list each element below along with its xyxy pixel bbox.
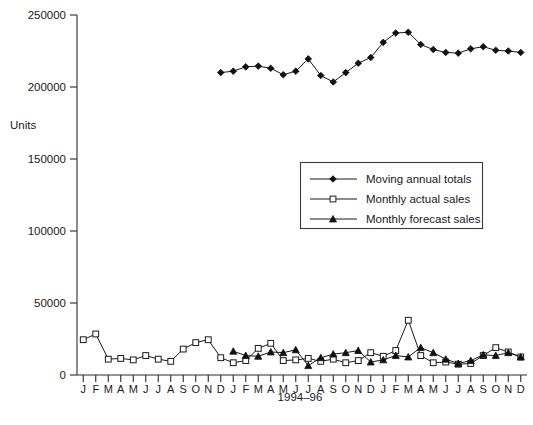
data-point bbox=[517, 49, 524, 56]
data-point bbox=[193, 340, 199, 346]
x-tick-label: J bbox=[143, 383, 149, 395]
data-point bbox=[455, 50, 462, 57]
y-tick-label: 0 bbox=[60, 369, 66, 381]
chart-container: 050000100000150000200000250000 JFMAMJJAS… bbox=[0, 0, 533, 425]
x-tick-label: A bbox=[267, 383, 275, 395]
data-point bbox=[180, 346, 186, 352]
y-axis-title: Units bbox=[10, 119, 36, 131]
data-point bbox=[368, 350, 374, 356]
data-point bbox=[418, 353, 424, 359]
data-point bbox=[267, 65, 274, 72]
x-tick-label: M bbox=[254, 383, 263, 395]
data-point bbox=[80, 337, 86, 343]
x-tick-label: A bbox=[117, 383, 125, 395]
data-point bbox=[93, 331, 99, 337]
y-tick-label: 50000 bbox=[34, 297, 66, 309]
data-point bbox=[130, 357, 136, 363]
y-axis: 050000100000150000200000250000 bbox=[28, 9, 77, 381]
data-point bbox=[405, 317, 411, 323]
data-point bbox=[493, 345, 499, 351]
data-point bbox=[230, 348, 237, 354]
data-point bbox=[442, 49, 449, 56]
data-point bbox=[255, 345, 261, 351]
data-point bbox=[268, 340, 274, 346]
x-tick-label: A bbox=[167, 383, 175, 395]
legend-marker-open-square bbox=[330, 196, 336, 202]
x-tick-label: A bbox=[417, 383, 425, 395]
x-tick-label: F bbox=[392, 383, 399, 395]
data-point bbox=[505, 48, 512, 55]
x-tick-label: S bbox=[180, 383, 187, 395]
data-point bbox=[343, 360, 349, 366]
x-tick-label: F bbox=[92, 383, 99, 395]
data-point bbox=[118, 356, 124, 362]
data-point bbox=[280, 71, 287, 78]
chart-svg: 050000100000150000200000250000 JFMAMJJAS… bbox=[0, 0, 533, 425]
data-point bbox=[305, 356, 311, 362]
x-tick-label: D bbox=[217, 383, 225, 395]
x-tick-label: J bbox=[81, 383, 87, 395]
data-point bbox=[492, 47, 499, 54]
data-point bbox=[242, 64, 249, 71]
data-point bbox=[230, 360, 236, 366]
data-point bbox=[217, 69, 224, 76]
x-tick-label: N bbox=[204, 383, 212, 395]
x-tick-label: M bbox=[129, 383, 138, 395]
x-tick-label: O bbox=[341, 383, 350, 395]
data-point bbox=[355, 358, 361, 364]
data-point bbox=[430, 360, 436, 366]
data-point bbox=[218, 355, 224, 361]
data-point bbox=[480, 43, 487, 50]
x-tick-label: J bbox=[156, 383, 162, 395]
legend-label: Monthly forecast sales bbox=[366, 213, 481, 225]
data-point bbox=[205, 337, 211, 343]
data-point bbox=[168, 358, 174, 364]
y-tick-label: 150000 bbox=[28, 153, 66, 165]
x-tick-label: J bbox=[231, 383, 237, 395]
series-open-square bbox=[80, 317, 523, 367]
x-axis-title: 1994–96 bbox=[278, 391, 323, 403]
data-point bbox=[467, 46, 474, 53]
series-filled-diamond bbox=[217, 29, 524, 85]
data-point bbox=[155, 356, 161, 362]
x-tick-label: D bbox=[517, 383, 525, 395]
y-tick-label: 200000 bbox=[28, 81, 66, 93]
x-tick-label: O bbox=[191, 383, 200, 395]
y-tick-label: 250000 bbox=[28, 9, 66, 21]
data-point bbox=[230, 68, 237, 75]
data-point bbox=[255, 63, 262, 70]
data-point bbox=[293, 357, 299, 363]
x-tick-label: N bbox=[354, 383, 362, 395]
y-tick-group: 050000100000150000200000250000 bbox=[28, 9, 77, 381]
y-tick-label: 100000 bbox=[28, 225, 66, 237]
data-point bbox=[292, 346, 299, 352]
x-tick-label: M bbox=[104, 383, 113, 395]
x-tick-label: F bbox=[242, 383, 249, 395]
x-tick-label: J bbox=[443, 383, 449, 395]
data-point bbox=[280, 358, 286, 364]
x-tick-label: S bbox=[330, 383, 337, 395]
legend-label: Moving annual totals bbox=[366, 173, 472, 185]
legend: Moving annual totalsMonthly actual sales… bbox=[301, 163, 483, 229]
data-point bbox=[105, 356, 111, 362]
data-point bbox=[430, 349, 437, 355]
legend-label: Monthly actual sales bbox=[366, 193, 470, 205]
x-tick-label: M bbox=[429, 383, 438, 395]
x-tick-label: J bbox=[456, 383, 462, 395]
x-tick-label: M bbox=[404, 383, 413, 395]
x-tick-label: N bbox=[504, 383, 512, 395]
data-point bbox=[430, 46, 437, 53]
x-tick-label: S bbox=[480, 383, 487, 395]
data-point bbox=[355, 347, 362, 353]
x-tick-label: D bbox=[367, 383, 375, 395]
x-tick-label: A bbox=[467, 383, 475, 395]
data-point bbox=[143, 353, 149, 359]
x-tick-label: J bbox=[381, 383, 387, 395]
x-tick-label: O bbox=[491, 383, 500, 395]
